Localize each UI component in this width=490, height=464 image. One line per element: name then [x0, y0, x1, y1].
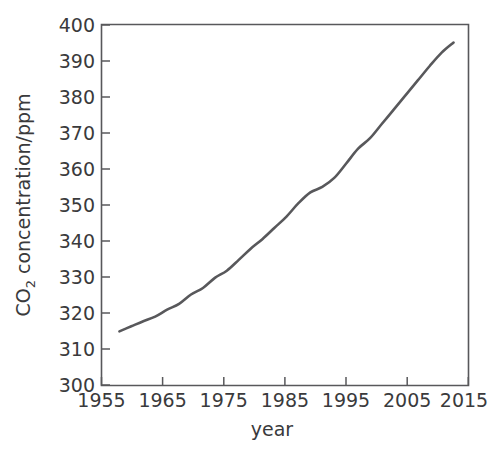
y-tick-label-380: 380 [59, 86, 95, 108]
axis-spines [102, 25, 469, 386]
y-tick-label-350: 350 [59, 194, 95, 216]
x-axis-title: year [251, 418, 294, 440]
x-tick-label-1985: 1985 [261, 389, 309, 411]
y-axis-title: CO2 concentration/ppm [12, 93, 38, 316]
y-axis-title-subscript: 2 [23, 280, 38, 288]
x-tick-label-2005: 2005 [383, 389, 431, 411]
series-line-co2 [119, 43, 453, 332]
y-axis-ticks [102, 25, 111, 385]
co2-concentration-chart: 400 390 380 370 360 350 340 330 320 310 … [0, 0, 490, 464]
x-axis-ticks [102, 377, 469, 386]
y-tick-label-320: 320 [59, 302, 95, 324]
svg-text:CO2 concentration/ppm: CO2 concentration/ppm [12, 93, 38, 316]
y-tick-label-390: 390 [59, 50, 95, 72]
y-tick-label-330: 330 [59, 266, 95, 288]
y-tick-label-310: 310 [59, 338, 95, 360]
plot-frame [102, 25, 469, 386]
x-tick-label-1995: 1995 [322, 389, 370, 411]
x-axis-tick-labels: 1955 1965 1975 1985 1995 2005 2015 [77, 389, 488, 411]
y-tick-label-360: 360 [59, 158, 95, 180]
y-axis-tick-labels: 400 390 380 370 360 350 340 330 320 310 … [59, 14, 95, 396]
y-tick-label-340: 340 [59, 230, 95, 252]
y-tick-label-370: 370 [59, 122, 95, 144]
chart-canvas: 400 390 380 370 360 350 340 330 320 310 … [0, 0, 490, 464]
y-axis-title-prefix: CO [12, 288, 34, 316]
y-tick-label-400: 400 [59, 14, 95, 36]
x-tick-label-1955: 1955 [77, 389, 125, 411]
x-tick-label-2015: 2015 [440, 389, 488, 411]
x-tick-label-1975: 1975 [200, 389, 248, 411]
x-tick-label-1965: 1965 [138, 389, 186, 411]
y-axis-title-suffix: concentration/ppm [12, 93, 34, 280]
